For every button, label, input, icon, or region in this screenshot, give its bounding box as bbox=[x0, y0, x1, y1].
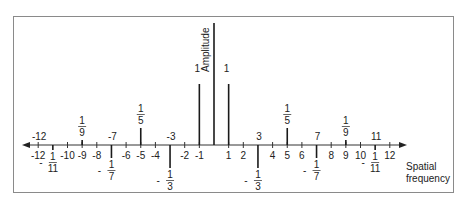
fraction-label: 15 bbox=[283, 103, 291, 126]
spectral-lines bbox=[53, 23, 375, 168]
svg-text:1: 1 bbox=[314, 159, 320, 170]
tick-label: 1 bbox=[226, 150, 232, 161]
tick-label: 4 bbox=[270, 150, 276, 161]
svg-text:1: 1 bbox=[109, 159, 115, 170]
svg-text:5: 5 bbox=[284, 115, 290, 126]
svg-text:1: 1 bbox=[284, 103, 290, 114]
fraction-label: -13 bbox=[244, 169, 262, 192]
harmonic-index-label: 11 bbox=[371, 131, 382, 142]
svg-text:1: 1 bbox=[343, 115, 349, 126]
svg-text:1: 1 bbox=[138, 103, 144, 114]
svg-text:9: 9 bbox=[79, 127, 85, 138]
fraction-label: -17 bbox=[303, 159, 321, 182]
svg-text:11: 11 bbox=[370, 163, 381, 174]
svg-text:11: 11 bbox=[48, 163, 59, 174]
tick-label: -9 bbox=[78, 150, 87, 161]
fraction-label: -17 bbox=[98, 159, 116, 182]
harmonic-index-label: -7 bbox=[108, 131, 117, 142]
svg-text:9: 9 bbox=[343, 127, 349, 138]
x-axis-label-line1: Spatial bbox=[406, 161, 437, 172]
tick-label: -2 bbox=[180, 150, 189, 161]
tick-label: 2 bbox=[241, 150, 247, 161]
tick-label: 8 bbox=[328, 150, 334, 161]
svg-text:1: 1 bbox=[255, 169, 261, 180]
fraction-label: 19 bbox=[78, 115, 86, 138]
tick-label: -4 bbox=[151, 150, 160, 161]
svg-text:-: - bbox=[156, 175, 159, 186]
fourier-spectrum-diagram: -12-10-9-8-6-5-4-2-112456891012 -12-7-33… bbox=[0, 0, 466, 203]
tick-label: -6 bbox=[122, 150, 131, 161]
harmonic-index-label: -3 bbox=[167, 131, 176, 142]
tick-label: 6 bbox=[299, 150, 305, 161]
x-axis-label-line2: frequency bbox=[406, 173, 450, 184]
svg-text:7: 7 bbox=[109, 171, 115, 182]
amplitude-label: 1 bbox=[224, 63, 230, 74]
harmonic-index-label: -12 bbox=[32, 131, 47, 142]
axis-tick-labels: -12-10-9-8-6-5-4-2-112456891012 bbox=[31, 150, 396, 161]
svg-text:-: - bbox=[303, 165, 306, 176]
tick-label: -1 bbox=[195, 150, 204, 161]
svg-text:1: 1 bbox=[50, 151, 56, 162]
svg-text:3: 3 bbox=[167, 181, 173, 192]
figure-frame bbox=[14, 17, 454, 193]
svg-text:1: 1 bbox=[167, 169, 173, 180]
svg-text:1: 1 bbox=[79, 115, 85, 126]
svg-text:-: - bbox=[244, 175, 247, 186]
svg-text:5: 5 bbox=[138, 115, 144, 126]
tick-label: -5 bbox=[136, 150, 145, 161]
amplitude-labels: 11-13-131515-17-171919-111-111 bbox=[39, 63, 381, 192]
axis-arrow-left-icon bbox=[22, 142, 30, 148]
axis-arrow-right-icon bbox=[399, 142, 407, 148]
harmonic-index-label: 3 bbox=[256, 131, 262, 142]
svg-text:-: - bbox=[361, 157, 364, 168]
fraction-label: 15 bbox=[137, 103, 145, 126]
y-axis-label: Amplitude bbox=[200, 27, 211, 72]
tick-label: -10 bbox=[60, 150, 75, 161]
svg-text:1: 1 bbox=[372, 151, 378, 162]
fraction-label: 19 bbox=[342, 115, 350, 138]
svg-text:7: 7 bbox=[314, 171, 320, 182]
harmonic-index-label: 7 bbox=[315, 131, 321, 142]
tick-label: -8 bbox=[92, 150, 101, 161]
tick-label: 9 bbox=[343, 150, 349, 161]
svg-text:-: - bbox=[98, 165, 101, 176]
svg-text:3: 3 bbox=[255, 181, 261, 192]
svg-text:-: - bbox=[39, 157, 42, 168]
tick-label: 5 bbox=[284, 150, 290, 161]
fraction-label: -13 bbox=[156, 169, 174, 192]
tick-label: 12 bbox=[384, 150, 396, 161]
